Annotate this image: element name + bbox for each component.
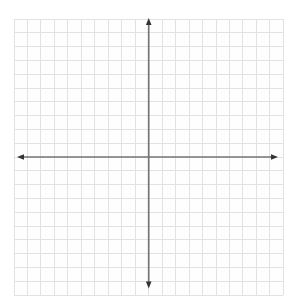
graph-paper — [0, 0, 293, 302]
coordinate-plane — [0, 0, 293, 302]
